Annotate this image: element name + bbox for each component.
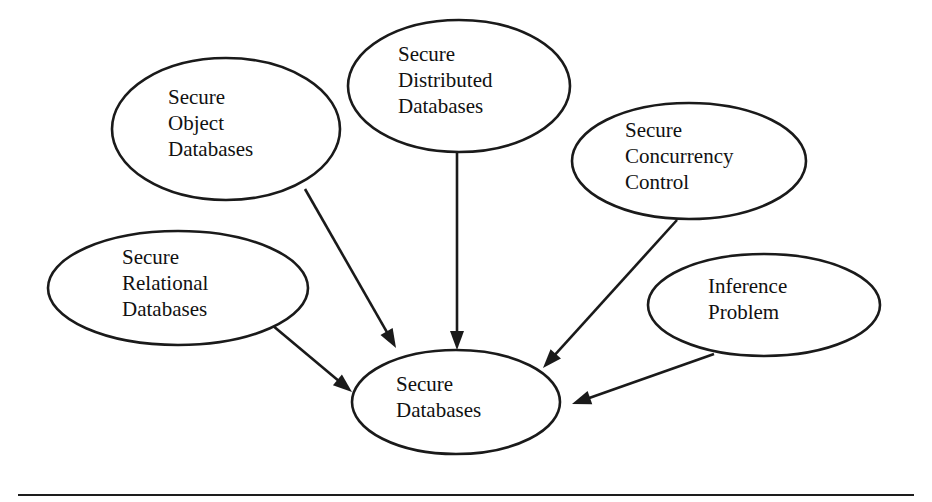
- node-label-line: Databases: [122, 297, 207, 321]
- edge-secure-object-databases-to-secure-databases: Secure Object Databases to Secure Databa…: [305, 189, 396, 348]
- node-label-line: Secure: [168, 85, 225, 109]
- diagram-svg: Secure Object Databases to Secure Databa…: [0, 0, 932, 502]
- node-secure-distributed-databases[interactable]: SecureDistributedDatabasesSecure Distrib…: [348, 20, 570, 152]
- node-label-line: Problem: [708, 300, 779, 324]
- arrowhead-icon: [450, 331, 464, 350]
- node-label-line: Secure: [122, 245, 179, 269]
- footer-divider: [18, 494, 914, 496]
- node-secure-concurrency-control[interactable]: SecureConcurrencyControlSecure Concurren…: [572, 103, 806, 219]
- node-label-line: Inference: [708, 274, 787, 298]
- arrowhead-icon: [572, 391, 592, 404]
- edge-secure-relational-databases-to-secure-databases: Secure Relational Databases to Secure Da…: [272, 325, 352, 392]
- node-label-line: Concurrency: [625, 144, 734, 168]
- nodes-layer: SecureObjectDatabasesSecure Object Datab…: [48, 20, 880, 454]
- node-label-line: Control: [625, 170, 689, 194]
- node-label-line: Secure: [625, 118, 682, 142]
- node-label-line: Secure: [398, 42, 455, 66]
- node-secure-object-databases[interactable]: SecureObjectDatabasesSecure Object Datab…: [112, 58, 340, 200]
- diagram-canvas: Secure Object Databases to Secure Databa…: [0, 0, 932, 502]
- edge-line: [587, 354, 714, 399]
- node-ellipse-secure-object-databases[interactable]: [112, 58, 340, 200]
- node-label-line: Databases: [168, 137, 253, 161]
- edge-inference-problem-to-secure-databases: Inference Problem to Secure Databases: [572, 354, 714, 404]
- arrowhead-icon: [380, 328, 396, 348]
- node-label-line: Databases: [398, 94, 483, 118]
- node-label-line: Object: [168, 111, 224, 135]
- node-label-line: Relational: [122, 271, 208, 295]
- edge-secure-distributed-databases-to-secure-databases: Secure Distributed Databases to Secure D…: [450, 151, 464, 350]
- edge-line: [305, 189, 388, 334]
- node-label-line: Secure: [396, 372, 453, 396]
- node-secure-databases[interactable]: SecureDatabasesSecure Databases: [352, 350, 560, 454]
- node-label-line: Distributed: [398, 68, 493, 92]
- node-label-line: Databases: [396, 398, 481, 422]
- edge-line: [272, 325, 340, 382]
- node-inference-problem[interactable]: InferenceProblemInference Problem: [648, 254, 880, 356]
- node-secure-relational-databases[interactable]: SecureRelationalDatabasesSecure Relation…: [48, 231, 308, 345]
